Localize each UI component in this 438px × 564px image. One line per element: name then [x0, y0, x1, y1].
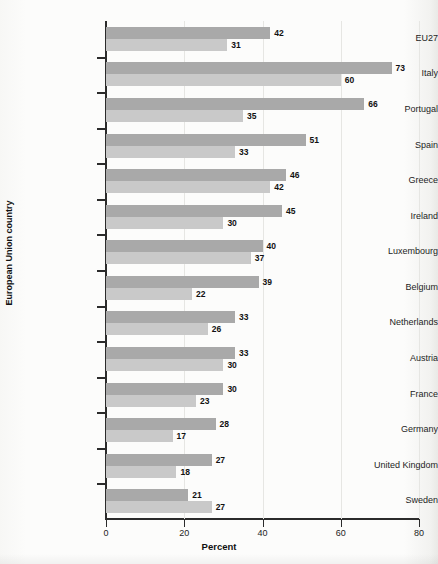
- bar-men: [106, 181, 270, 193]
- x-tick: [106, 520, 107, 527]
- y-tick: [97, 377, 106, 379]
- y-tick: [97, 341, 106, 343]
- bar-women: [106, 240, 263, 252]
- figure-page: European Union country 42317360663551334…: [0, 0, 438, 564]
- category-label: Italy: [346, 68, 438, 78]
- bar-value-men: 18: [180, 467, 189, 477]
- bar-women: [106, 27, 270, 39]
- bar-men: [106, 39, 227, 51]
- x-tick-label: 20: [179, 528, 189, 538]
- category-label: Netherlands: [346, 317, 438, 327]
- bar-value-men: 17: [177, 431, 186, 441]
- bar-women: [106, 311, 235, 323]
- bar-value-men: 23: [200, 396, 209, 406]
- bar-women: [106, 418, 216, 430]
- bar-women: [106, 383, 223, 395]
- bar-value-men: 22: [196, 289, 205, 299]
- gridline: [184, 21, 185, 519]
- category-label: Ireland: [346, 211, 438, 221]
- y-tick: [97, 199, 106, 201]
- category-label: EU27: [346, 33, 438, 43]
- bar-value-women: 28: [220, 419, 229, 429]
- bar-value-men: 27: [216, 502, 225, 512]
- plot-area: 4231736066355133464245304037392233263330…: [106, 21, 419, 519]
- bar-value-women: 27: [216, 455, 225, 465]
- gridline: [263, 21, 264, 519]
- x-tick-label: 0: [103, 528, 108, 538]
- bar-women: [106, 98, 364, 110]
- bar-men: [106, 430, 173, 442]
- bar-men: [106, 359, 223, 371]
- y-axis-label: European Union country: [4, 168, 14, 338]
- category-label: Sweden: [346, 495, 438, 505]
- category-label: Greece: [346, 175, 438, 185]
- category-label: Germany: [346, 424, 438, 434]
- bar-women: [106, 205, 282, 217]
- y-tick: [97, 306, 106, 308]
- bar-men: [106, 110, 243, 122]
- bar-value-women: 33: [239, 348, 248, 358]
- x-tick-label: 60: [336, 528, 346, 538]
- y-tick: [97, 234, 106, 236]
- bar-women: [106, 489, 188, 501]
- bar-value-women: 30: [227, 384, 236, 394]
- category-label: France: [346, 389, 438, 399]
- bar-value-men: 31: [231, 40, 240, 50]
- bar-men: [106, 74, 341, 86]
- bar-value-women: 21: [192, 490, 201, 500]
- bar-value-women: 40: [267, 241, 276, 251]
- x-tick: [184, 520, 185, 527]
- category-label: United Kingdom: [346, 460, 438, 470]
- x-axis-label: Percent: [0, 541, 438, 552]
- bar-men: [106, 288, 192, 300]
- y-tick: [97, 448, 106, 450]
- bar-value-women: 45: [286, 206, 295, 216]
- x-tick: [341, 520, 342, 527]
- category-label: Portugal: [346, 104, 438, 114]
- category-label: Austria: [346, 353, 438, 363]
- x-tick: [263, 520, 264, 527]
- bar-value-men: 37: [255, 253, 264, 263]
- y-tick: [97, 92, 106, 94]
- bar-men: [106, 217, 223, 229]
- bar-value-men: 30: [227, 218, 236, 228]
- bar-value-women: 51: [310, 135, 319, 145]
- bar-men: [106, 501, 212, 513]
- bar-women: [106, 169, 286, 181]
- bar-men: [106, 252, 251, 264]
- x-tick: [419, 520, 420, 527]
- bar-value-women: 42: [274, 28, 283, 38]
- bar-value-men: 26: [212, 324, 221, 334]
- gridline: [341, 21, 342, 519]
- y-tick: [97, 57, 106, 59]
- bar-value-women: 46: [290, 170, 299, 180]
- y-tick: [97, 412, 106, 414]
- x-tick-label: 80: [414, 528, 424, 538]
- y-tick: [97, 128, 106, 130]
- bar-value-men: 30: [227, 360, 236, 370]
- y-tick: [97, 483, 106, 485]
- bar-women: [106, 454, 212, 466]
- bar-men: [106, 466, 176, 478]
- bar-value-men: 35: [247, 111, 256, 121]
- bar-women: [106, 276, 259, 288]
- x-tick-label: 40: [257, 528, 267, 538]
- bar-value-men: 42: [274, 182, 283, 192]
- category-label: Luxembourg: [346, 246, 438, 256]
- bar-value-women: 39: [263, 277, 272, 287]
- bar-value-women: 33: [239, 312, 248, 322]
- y-tick: [97, 163, 106, 165]
- bar-value-men: 33: [239, 147, 248, 157]
- bar-women: [106, 134, 306, 146]
- bar-men: [106, 395, 196, 407]
- category-label: Belgium: [346, 282, 438, 292]
- gridline: [419, 21, 420, 519]
- bar-women: [106, 347, 235, 359]
- bar-men: [106, 323, 208, 335]
- bar-men: [106, 146, 235, 158]
- y-tick: [97, 270, 106, 272]
- category-label: Spain: [346, 140, 438, 150]
